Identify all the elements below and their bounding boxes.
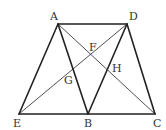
point-label-e: E — [13, 117, 21, 130]
point-label-d: D — [129, 10, 138, 23]
segments-group — [19, 24, 155, 114]
point-label-c: C — [153, 117, 161, 130]
point-label-b: B — [84, 117, 92, 130]
point-label-a: A — [49, 10, 59, 23]
point-label-g: G — [64, 74, 73, 87]
geometry-figure: ADEBCFGH — [0, 0, 166, 130]
segment-ae — [19, 24, 58, 114]
point-label-h: H — [112, 62, 122, 75]
point-label-f: F — [89, 41, 97, 54]
